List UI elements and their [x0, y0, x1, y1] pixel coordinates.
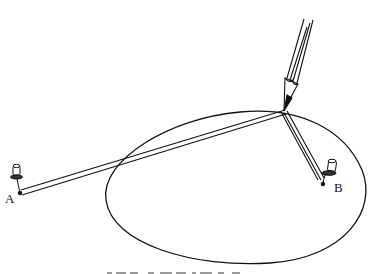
string-pencil-to-b	[281, 111, 324, 180]
ellipse-construction-diagram: A B	[0, 0, 377, 274]
pencil	[284, 19, 313, 111]
pin-b-label: B	[334, 180, 343, 195]
ellipse-curve	[106, 111, 366, 264]
pin-a-label: A	[5, 191, 15, 206]
string-a-to-pencil	[21, 110, 286, 195]
